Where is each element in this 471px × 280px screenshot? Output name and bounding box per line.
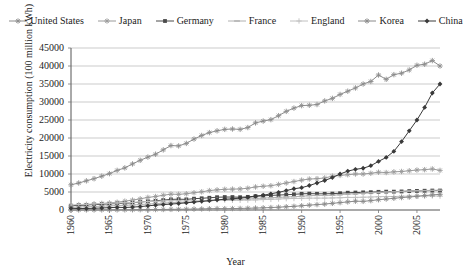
x-axis-tick-label: 1975 <box>181 215 191 235</box>
x-axis-tick-label: 1960 <box>66 215 76 235</box>
x-axis-tick-label: 1985 <box>258 215 268 235</box>
series-united-states <box>68 58 442 188</box>
x-axis-tick-label: 2005 <box>412 215 422 235</box>
x-axis-tick-label: 1995 <box>335 215 345 235</box>
x-axis-tick-label: 2000 <box>374 215 384 235</box>
x-axis-title: Year <box>0 256 471 267</box>
x-axis-tick-label: 1990 <box>297 215 307 235</box>
line-chart: United StatesJapanGermanyFranceEnglandKo… <box>0 0 471 280</box>
x-axis-tick-label: 1980 <box>220 215 230 235</box>
plot-area <box>0 0 471 280</box>
x-axis-tick-label: 1970 <box>143 215 153 235</box>
x-axis-tick-label: 1965 <box>104 215 114 235</box>
